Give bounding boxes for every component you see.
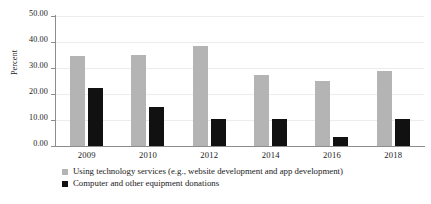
- bar: [211, 119, 226, 146]
- bar: [315, 81, 330, 146]
- chart-legend: Using technology services (e.g., website…: [62, 166, 343, 189]
- legend-label: Computer and other equipment donations: [73, 178, 219, 189]
- y-axis-tick-label: 50.00: [29, 9, 48, 18]
- bar-chart: Percent 0.0010.0020.0030.0040.0050.00 20…: [0, 0, 431, 204]
- x-axis-tick-label: 2018: [367, 147, 419, 163]
- legend-swatch: [62, 181, 68, 187]
- y-axis-title: Percent: [10, 33, 19, 93]
- bar-group: [122, 16, 174, 146]
- y-axis-tick-label: 0.00: [33, 139, 48, 148]
- bar: [254, 75, 269, 147]
- bar: [88, 88, 103, 147]
- bar-group: [61, 16, 113, 146]
- legend-item: Using technology services (e.g., website…: [62, 166, 343, 177]
- bar: [193, 46, 208, 146]
- bar: [395, 119, 410, 146]
- legend-swatch: [62, 169, 68, 175]
- bar: [149, 107, 164, 146]
- legend-item: Computer and other equipment donations: [62, 178, 343, 189]
- y-axis-tick-label: 20.00: [29, 87, 48, 96]
- y-axis-tick-label: 30.00: [29, 61, 48, 70]
- y-axis-tick-label: 40.00: [29, 35, 48, 44]
- bar-groups: [56, 16, 424, 146]
- x-axis-ticks: 200920102012201420162018: [56, 147, 424, 163]
- x-axis-tick-label: 2010: [122, 147, 174, 163]
- bar-group: [306, 16, 358, 146]
- bar: [70, 56, 85, 146]
- bar-group: [245, 16, 297, 146]
- legend-label: Using technology services (e.g., website…: [73, 166, 343, 177]
- bar-group: [183, 16, 235, 146]
- bar: [377, 71, 392, 146]
- x-axis-tick-label: 2009: [61, 147, 113, 163]
- bar: [333, 137, 348, 146]
- x-axis-tick-label: 2016: [306, 147, 358, 163]
- x-axis-tick-label: 2012: [183, 147, 235, 163]
- y-axis-tick-label: 10.00: [29, 113, 48, 122]
- bar-group: [367, 16, 419, 146]
- bar: [272, 119, 287, 146]
- bar: [131, 55, 146, 146]
- x-axis-tick-label: 2014: [245, 147, 297, 163]
